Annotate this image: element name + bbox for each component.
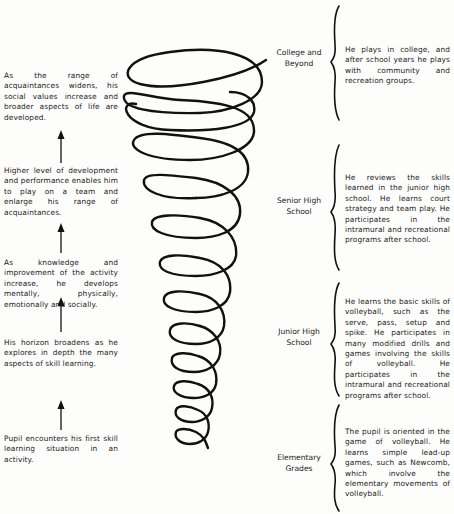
stage-label-senior-high: Senior High School [266, 196, 332, 217]
stage-label-college: College and Beyond [266, 48, 332, 69]
left-note-horizon: His horizon broadens as he explores in d… [4, 338, 118, 369]
expanding-helix-icon [124, 50, 266, 448]
stage-desc-elementary: The pupil is oriented in the game of vol… [345, 427, 450, 500]
stage-desc-junior-high: He learns the basic skills of volleyball… [345, 297, 450, 401]
stage-desc-college: He plays in college, and after school ye… [345, 45, 450, 87]
left-note-social-values: As the range of acquaintances widens, hi… [4, 71, 118, 123]
left-curly-brace-icon [331, 6, 339, 511]
stage-label-elementary: Elementary Grades [266, 453, 332, 474]
left-note-first-encounter: Pupil encounters his first skill learnin… [4, 434, 118, 465]
stage-desc-senior-high: He reviews the skills learned in the jun… [345, 173, 450, 246]
left-note-team-play: Higher level of development and performa… [4, 166, 118, 218]
left-note-development: As knowledge and improvement of the acti… [4, 258, 118, 310]
stage-label-junior-high: Junior High School [266, 327, 332, 348]
